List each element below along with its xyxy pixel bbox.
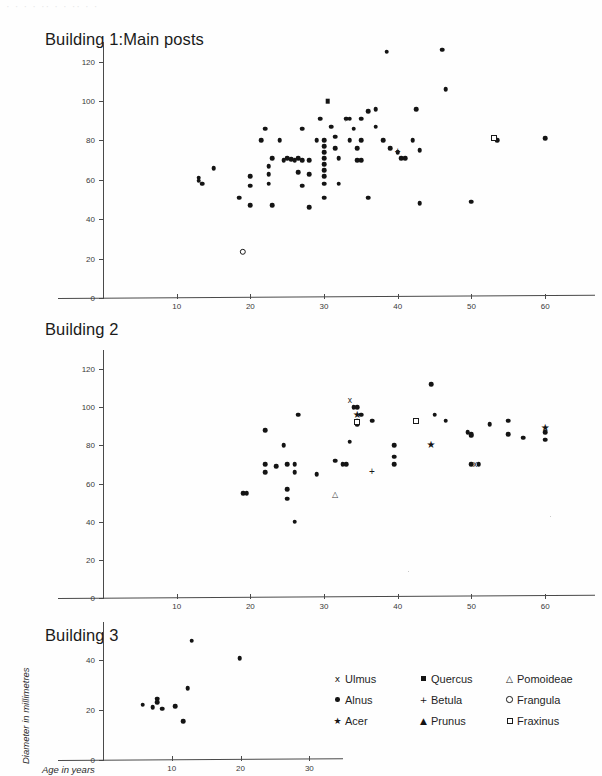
data-point-filled-circle <box>414 107 419 112</box>
y-tick-label: 80 <box>75 441 95 450</box>
data-point-filled-circle <box>432 413 437 418</box>
data-point-filled-circle <box>381 138 386 143</box>
x-tick <box>241 756 242 761</box>
legend-label: Betula <box>431 694 462 706</box>
y-tick-label: 0 <box>75 594 95 603</box>
x-tick <box>398 294 399 299</box>
data-point-filled-circle <box>155 700 160 705</box>
data-point-filled-circle <box>274 464 279 469</box>
y-tick <box>99 560 104 561</box>
data-point-filled-circle <box>189 639 194 644</box>
legend-item-ulmus: xUlmus <box>330 673 416 685</box>
x-tick <box>177 294 178 299</box>
data-point-filled-circle <box>267 172 272 177</box>
x-tick-label: 20 <box>246 602 255 611</box>
data-point-filled-circle <box>263 470 268 475</box>
data-point-filled-circle <box>506 432 511 437</box>
data-point-star: ★ <box>541 423 550 433</box>
legend-item-alnus: Alnus <box>330 694 416 706</box>
data-point-filled-circle <box>359 117 364 122</box>
legend-label: Quercus <box>431 673 473 685</box>
data-point-filled-circle <box>211 166 216 171</box>
data-point-filled-circle <box>403 156 408 161</box>
data-point-filled-circle <box>429 382 434 387</box>
data-point-filled-circle <box>373 107 378 112</box>
data-point-filled-circle <box>351 126 356 131</box>
filled-square-icon <box>416 676 431 681</box>
data-point-filled-circle <box>307 172 312 177</box>
y-tick <box>99 62 104 63</box>
data-point-filled-circle <box>322 156 327 161</box>
data-point-x: x <box>473 460 477 469</box>
data-point-filled-circle <box>359 158 364 163</box>
plus-icon: + <box>416 695 431 705</box>
data-point-filled-circle <box>392 462 397 467</box>
x-icon: x <box>330 674 345 684</box>
legend-item-quercus: Quercus <box>416 673 502 685</box>
data-point-filled-circle <box>278 138 283 143</box>
data-point-filled-circle <box>263 428 268 433</box>
y-tick <box>99 101 104 102</box>
x-tick-label: 10 <box>172 602 181 611</box>
y-tick-label: 40 <box>75 655 95 664</box>
data-point-filled-circle <box>244 491 249 496</box>
data-point-filled-circle <box>248 183 253 188</box>
data-point-filled-circle <box>333 134 338 139</box>
x-tick <box>324 294 325 299</box>
y-tick-label: 20 <box>75 705 95 714</box>
data-point-filled-circle <box>181 719 186 724</box>
data-point-filled-circle <box>285 462 290 467</box>
data-point-filled-circle <box>359 138 364 143</box>
data-point-filled-circle <box>307 158 312 163</box>
data-point-filled-circle <box>238 656 243 661</box>
data-point-filled-circle <box>322 195 327 200</box>
open-triangle-icon: △ <box>502 674 517 684</box>
x-tick <box>250 294 251 299</box>
data-point-open-circle <box>240 249 246 255</box>
data-point-filled-circle <box>366 195 371 200</box>
data-point-filled-circle <box>469 199 474 204</box>
data-point-filled-square <box>325 99 330 104</box>
data-point-filled-circle <box>259 138 264 143</box>
y-tick-label: 20 <box>75 555 95 564</box>
panel-3-title: Building 3 <box>45 626 118 645</box>
data-point-filled-circle <box>337 156 342 161</box>
x-tick <box>471 294 472 299</box>
y-tick <box>99 598 104 599</box>
x-tick <box>324 594 325 599</box>
data-point-filled-circle <box>322 174 327 179</box>
legend: xUlmusQuercus△PomoideaeAlnus+BetulaFrang… <box>330 668 588 731</box>
data-point-open-square <box>413 418 419 424</box>
data-point-filled-circle <box>150 705 155 710</box>
data-point-filled-circle <box>392 455 397 460</box>
x-tick-label: 60 <box>541 602 550 611</box>
y-axis-line-3 <box>103 622 104 760</box>
data-point-filled-circle <box>348 138 353 143</box>
data-point-filled-circle <box>237 195 242 200</box>
data-point-filled-circle <box>292 462 297 467</box>
data-point-filled-circle <box>300 183 305 188</box>
data-point-filled-circle <box>344 462 349 467</box>
legend-item-pomoideae: △Pomoideae <box>502 673 588 685</box>
y-tick <box>99 298 104 299</box>
legend-row: ★Acer▲PrunusFraxinus <box>330 710 588 731</box>
y-tick-label: 20 <box>75 254 95 263</box>
data-point-filled-circle <box>185 686 190 691</box>
legend-item-betula: +Betula <box>416 694 502 706</box>
x-tick <box>177 594 178 599</box>
data-point-filled-circle <box>543 437 548 442</box>
data-point-filled-circle <box>543 136 548 141</box>
x-tick-label: 40 <box>393 602 402 611</box>
data-point-filled-circle <box>488 422 493 427</box>
data-point-filled-circle <box>322 144 327 149</box>
y-tick-label: 60 <box>75 175 95 184</box>
data-point-filled-circle <box>373 124 378 129</box>
filled-triangle-icon: ▲ <box>416 716 431 726</box>
data-point-filled-circle <box>292 470 297 475</box>
legend-item-prunus: ▲Prunus <box>416 715 502 727</box>
data-point-filled-circle <box>270 203 275 208</box>
x-tick <box>250 594 251 599</box>
data-point-filled-circle <box>418 201 423 206</box>
data-point-filled-circle <box>248 203 253 208</box>
y-tick <box>99 140 104 141</box>
